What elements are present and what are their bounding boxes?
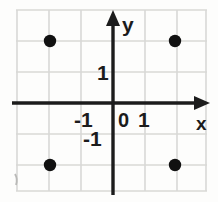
y-tick-label-positive-one: 1 [97, 61, 109, 84]
x-tick-label-positive-one: 1 [138, 108, 150, 131]
axis-labels: y x 1 -1 0 1 -1 [74, 13, 207, 150]
arrow-right-icon [194, 96, 210, 110]
coordinate-plane-figure: y x 1 -1 0 1 -1 [0, 0, 218, 202]
origin-label: 0 [118, 109, 129, 131]
x-axis-label: x [196, 113, 207, 134]
y-axis-label: y [122, 13, 134, 36]
data-point [169, 35, 181, 47]
data-point [169, 159, 181, 171]
coordinate-plane-svg: y x 1 -1 0 1 -1 [0, 0, 218, 202]
data-point [44, 159, 56, 171]
data-point [44, 35, 56, 47]
scan-artifact [15, 174, 17, 185]
arrow-up-icon [106, 10, 120, 26]
y-tick-label-negative-one: -1 [83, 127, 102, 150]
smudge-mark [15, 174, 17, 185]
